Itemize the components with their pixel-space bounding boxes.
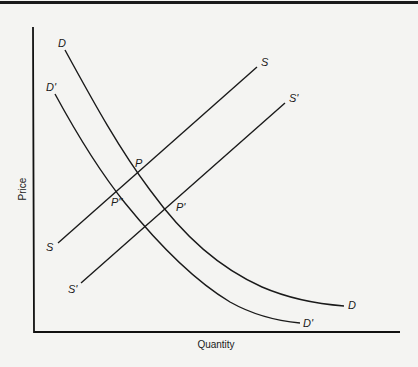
label-point-p-prime: P' [176,201,186,213]
label-d-top: D [58,37,66,49]
label-s-start: S [46,241,54,253]
supply-demand-diagram: D D' D D' S S' S S' P P'' P' Quantity Pr… [0,0,418,367]
label-d-end: D [348,299,356,311]
supply-curve-s [58,67,257,243]
label-s-prime-end: S' [289,92,299,104]
y-axis-label: Price [17,177,28,200]
label-d-prime-end: D' [303,317,314,329]
label-s-end: S [261,56,269,68]
axes [33,27,400,332]
x-axis-label: Quantity [197,339,234,350]
supply-curve-s-prime [81,103,285,283]
label-point-p-double-prime: P'' [111,196,123,208]
label-point-p: P [135,157,143,169]
label-s-prime-start: S' [68,283,78,295]
label-d-prime-top: D' [46,81,57,93]
